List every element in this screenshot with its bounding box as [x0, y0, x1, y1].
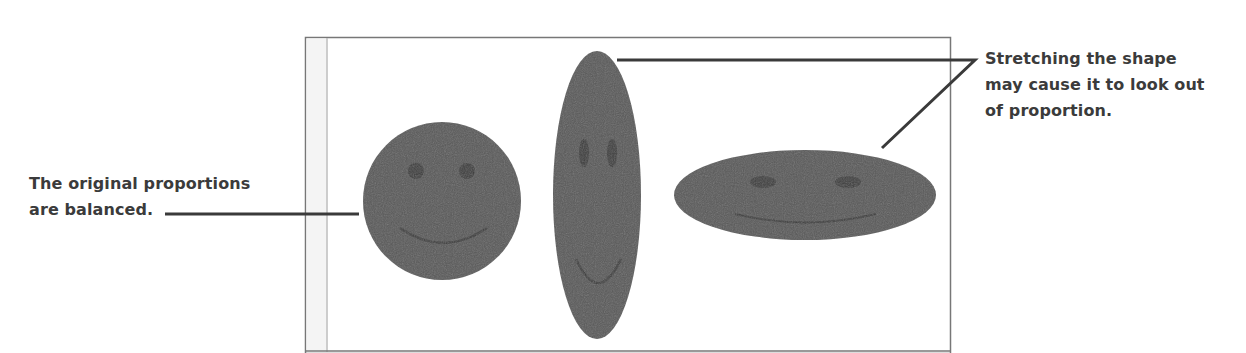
horizontally-stretched-face: [674, 150, 936, 240]
right-eye-icon: [459, 163, 475, 179]
callout-right-line-3: of proportion.: [985, 98, 1245, 124]
right-eye-icon: [835, 176, 861, 188]
right-eye-icon: [607, 139, 617, 167]
original-proportions-callout: The original proportions are balanced.: [29, 171, 289, 223]
callout-left-line-1: The original proportions: [29, 171, 289, 197]
proportion-illustration: The original proportions are balanced. S…: [0, 0, 1246, 353]
left-eye-icon: [750, 176, 776, 188]
callout-left-line-2: are balanced.: [29, 197, 289, 223]
left-eye-icon: [579, 139, 589, 167]
stretching-callout: Stretching the shape may cause it to loo…: [985, 46, 1245, 124]
callout-right-line-1: Stretching the shape: [985, 46, 1245, 72]
left-eye-icon: [408, 163, 424, 179]
callout-right-line-2: may cause it to look out: [985, 72, 1245, 98]
vertically-stretched-face: [553, 51, 641, 339]
original-circle-face: [363, 122, 521, 280]
